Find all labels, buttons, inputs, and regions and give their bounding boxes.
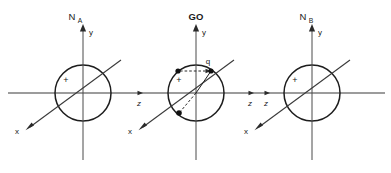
frame-na-y-arrowhead — [80, 24, 86, 32]
charge-dot-left — [175, 68, 180, 73]
charge-dot-right — [208, 68, 213, 73]
frame-go-title: GO — [189, 11, 204, 22]
z-label-3: z — [263, 99, 268, 108]
frame-go-polarity-label: + — [176, 75, 181, 85]
frame-nb-title-subscript: B — [309, 17, 314, 24]
z-arrowhead-1 — [138, 91, 144, 96]
charge-dot-lower — [176, 110, 182, 116]
frame-na-y-label: y — [89, 28, 93, 37]
frame-nb-x-arrowhead — [255, 122, 264, 130]
z-arrowhead-3 — [265, 91, 271, 96]
charge-q-label: q — [206, 57, 210, 66]
frame-go-group — [139, 24, 235, 160]
frame-nb-polarity-label: + — [292, 75, 297, 85]
frame-na-title: N — [69, 11, 76, 22]
frame-go-x-label: x — [128, 127, 132, 136]
frame-go-y-arrowhead — [193, 24, 199, 32]
z-label-1: z — [136, 99, 141, 108]
frame-na-group — [26, 24, 122, 160]
frame-nb-y-label: y — [318, 28, 322, 37]
frame-nb-title: N — [300, 11, 307, 22]
frame-nb-y-arrowhead — [309, 24, 315, 32]
z-label-2: z — [247, 99, 252, 108]
frame-na-polarity-label: + — [63, 75, 68, 85]
go-ray-to-charge-right — [196, 71, 211, 93]
diagram-canvas: N A GO N B y y y x x x + + + q z z z — [0, 0, 391, 173]
frame-nb-group — [255, 24, 351, 160]
frame-go-y-label: y — [202, 28, 206, 37]
frame-go-x-arrowhead — [139, 122, 148, 130]
go-ray-to-charge-lower — [180, 93, 196, 112]
frame-na-x-label: x — [15, 127, 19, 136]
coordinate-frames-diagram: N A GO N B y y y x x x + + + q z z z — [0, 0, 391, 173]
z-arrowhead-2 — [249, 91, 255, 96]
frame-na-x-arrowhead — [26, 122, 35, 130]
frame-na-title-subscript: A — [78, 17, 83, 24]
frame-nb-x-label: x — [244, 127, 248, 136]
